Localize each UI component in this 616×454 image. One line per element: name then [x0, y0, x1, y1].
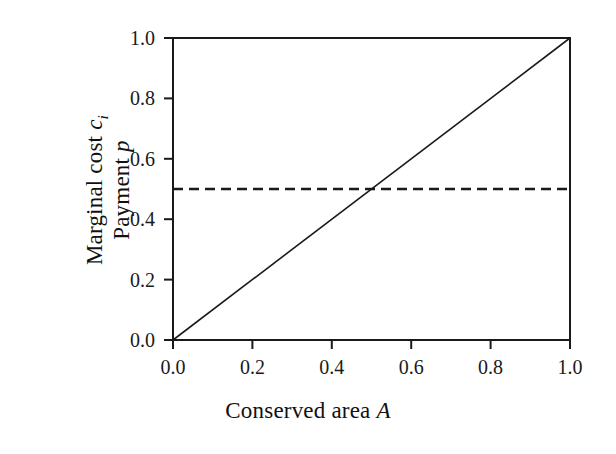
x-tick-label-2: 0.4 — [319, 357, 344, 377]
x-axis-tick-marks — [173, 340, 570, 349]
y-axis-tick-marks — [164, 38, 173, 340]
x-tick-label-1: 0.2 — [240, 357, 265, 377]
x-tick-label-0: 0.0 — [161, 357, 186, 377]
y-tick-label-4: 0.8 — [130, 88, 155, 108]
x-axis-title-variable: A — [376, 398, 390, 423]
y-tick-label-1: 0.2 — [130, 270, 155, 290]
y-tick-label-2: 0.4 — [130, 209, 155, 229]
x-tick-label-5: 1.0 — [558, 357, 583, 377]
x-axis-title-text: Conserved area — [225, 398, 376, 423]
chart-canvas — [0, 0, 616, 454]
y-tick-label-0: 0.0 — [130, 330, 155, 350]
x-axis-title: Conserved area A — [0, 398, 616, 424]
y-tick-label-5: 1.0 — [130, 28, 155, 48]
x-tick-label-3: 0.6 — [399, 357, 424, 377]
figure-chart: 1.0 0.8 0.6 0.4 0.2 0.0 0.0 0.2 0.4 0.6 … — [0, 0, 616, 454]
y-tick-label-3: 0.6 — [130, 149, 155, 169]
x-tick-label-4: 0.8 — [478, 357, 503, 377]
